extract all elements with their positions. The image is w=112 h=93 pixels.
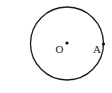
diagram-canvas: O A <box>0 0 112 93</box>
label-o: O <box>56 43 64 55</box>
point-a <box>102 42 105 45</box>
center-point-o <box>65 41 68 44</box>
label-a: A <box>93 43 101 55</box>
